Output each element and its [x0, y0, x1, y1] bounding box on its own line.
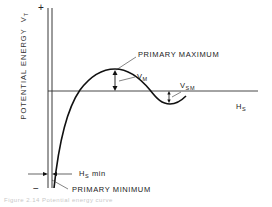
vsm-arrowhead-down	[167, 100, 170, 104]
primary-minimum-label: PRIMARY MINIMUM	[72, 185, 151, 194]
vsm-label: VSM	[180, 81, 195, 90]
primary-maximum-leader	[116, 57, 136, 70]
vm-arrowhead-up	[113, 70, 118, 75]
y-axis-symbol: VT	[19, 12, 28, 25]
hs-min-left-arrowhead	[43, 172, 48, 176]
hs-min-label: HS min	[79, 169, 106, 178]
hs-axis-label: HS	[236, 102, 246, 111]
vsm-arrowhead-up	[167, 91, 170, 95]
vsm-leader	[172, 92, 181, 97]
vm-label: VM	[137, 72, 148, 81]
vm-leader	[119, 77, 135, 81]
y-axis-label: POTENTIAL ENERGY VT	[19, 30, 28, 120]
y-axis-label-text: POTENTIAL ENERGY	[19, 28, 28, 119]
primary-maximum-label: PRIMARY MAXIMUM	[138, 50, 219, 59]
vm-arrowhead-down	[113, 86, 118, 91]
minus-sign: −	[33, 183, 39, 194]
diagram-canvas	[0, 0, 272, 207]
figure-caption: Figure 2.14 Potential energy curve	[4, 197, 113, 203]
potential-energy-curve	[54, 69, 186, 188]
hs-min-right-arrowhead	[52, 172, 57, 176]
plus-sign: +	[38, 2, 44, 13]
